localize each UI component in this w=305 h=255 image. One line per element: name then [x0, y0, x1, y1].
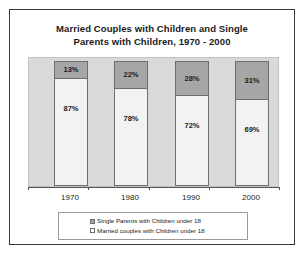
legend-label-single-parents: Single Parents with Children under 18: [97, 217, 201, 225]
chart-frame: Married Couples with Children and Single…: [9, 9, 295, 245]
bar-label-single-parents-1980: 22%: [123, 71, 138, 79]
chart-title-line-1: Married Couples with Children and Single: [10, 22, 294, 35]
bar-segment-married-1980[interactable]: 78%: [114, 89, 148, 186]
bar-segment-single-parents-1980[interactable]: 22%: [114, 61, 148, 89]
bar-label-married-2000: 69%: [244, 126, 259, 134]
bar-segment-single-parents-1990[interactable]: 28%: [175, 61, 209, 96]
bar-segment-married-1990[interactable]: 72%: [175, 96, 209, 186]
x-axis-labels: 1970 1980 1990 2000: [28, 193, 279, 205]
bar-segment-married-1970[interactable]: 87%: [54, 79, 88, 186]
bar-label-single-parents-2000: 31%: [244, 77, 259, 85]
chart-title: Married Couples with Children and Single…: [10, 22, 294, 48]
legend-swatch-icon: [90, 228, 95, 233]
bar-group-1990: 28% 72%: [175, 58, 209, 186]
x-axis-label-2000: 2000: [231, 193, 271, 202]
bar-label-married-1990: 72%: [184, 122, 199, 130]
x-axis-tick: [28, 187, 29, 190]
x-axis-label-1990: 1990: [171, 193, 211, 202]
x-axis-tick: [88, 187, 89, 190]
bar-label-married-1980: 78%: [123, 115, 138, 123]
bar-group-1980: 22% 78%: [114, 58, 148, 186]
bar-segment-single-parents-2000[interactable]: 31%: [235, 61, 269, 100]
x-axis-tick: [209, 187, 210, 190]
bars-layer: 13% 87% 22% 78% 28% 72%: [29, 58, 278, 186]
chart-legend: Single Parents with Children under 18 Ma…: [58, 212, 248, 240]
legend-item-single-parents[interactable]: Single Parents with Children under 18: [63, 217, 243, 226]
legend-swatch-icon: [90, 219, 95, 224]
chart-title-line-2: Parents with Children, 1970 - 2000: [10, 35, 294, 48]
legend-label-married-couples: Married couples with Children under 18: [97, 227, 205, 235]
x-axis-tick: [279, 187, 280, 190]
x-axis-tick: [149, 187, 150, 190]
bar-label-single-parents-1970: 13%: [63, 66, 78, 74]
plot-area: 13% 87% 22% 78% 28% 72%: [28, 57, 279, 187]
bar-group-2000: 31% 69%: [235, 58, 269, 186]
bar-label-single-parents-1990: 28%: [184, 75, 199, 83]
bar-group-1970: 13% 87%: [54, 58, 88, 186]
x-axis-label-1980: 1980: [110, 193, 150, 202]
x-axis-line: [28, 187, 279, 188]
legend-item-married-couples[interactable]: Married couples with Children under 18: [63, 226, 243, 235]
bar-label-married-1970: 87%: [63, 105, 78, 113]
bar-segment-married-2000[interactable]: 69%: [235, 100, 269, 186]
bar-segment-single-parents-1970[interactable]: 13%: [54, 61, 88, 79]
x-axis-label-1970: 1970: [50, 193, 90, 202]
